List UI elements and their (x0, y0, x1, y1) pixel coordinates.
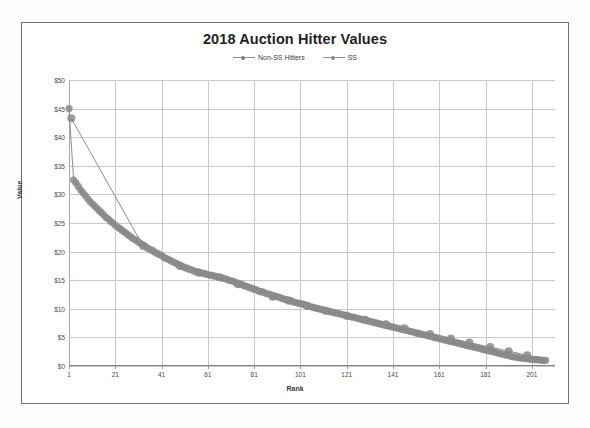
series-markers-non-ss-hitters (65, 105, 549, 364)
x-axis-tick-label: 21 (112, 371, 119, 378)
x-axis-tick-label: 1 (67, 371, 71, 378)
x-axis-tick-marks (69, 366, 555, 370)
data-point (139, 242, 147, 250)
data-point (447, 335, 455, 343)
x-axis-tick-label: 121 (341, 371, 352, 378)
y-axis-tick-label: $0 (58, 363, 65, 370)
data-point (505, 347, 513, 355)
x-axis-tick-mark (254, 366, 255, 369)
data-point (285, 297, 293, 305)
legend-item-ss[interactable]: SS (323, 54, 357, 61)
x-axis-tick-mark (439, 366, 440, 369)
data-point (343, 312, 351, 320)
y-axis-tick-label: $45 (54, 105, 65, 112)
x-axis-tick-label: 101 (295, 371, 306, 378)
y-axis-tick-label: $10 (54, 305, 65, 312)
y-axis-tick-label: $5 (58, 334, 65, 341)
data-point (542, 357, 549, 364)
data-point (195, 269, 203, 277)
data-point (382, 320, 390, 328)
legend-marker-icon (233, 54, 255, 61)
legend-label-ss: SS (348, 54, 357, 61)
data-point (361, 316, 369, 324)
x-axis-tick-label: 161 (434, 371, 445, 378)
data-point (269, 293, 277, 301)
y-axis-title: Value (16, 181, 23, 199)
data-point (426, 330, 434, 338)
x-axis-tick-label: 141 (388, 371, 399, 378)
data-point (401, 324, 409, 332)
series-line (71, 118, 527, 355)
x-axis-tick-label: 201 (526, 371, 537, 378)
data-point (234, 280, 242, 288)
x-axis-tick-mark (115, 366, 116, 369)
x-axis-tick-mark (486, 366, 487, 369)
data-point (465, 339, 473, 347)
chart-title: 2018 Auction Hitter Values (22, 31, 568, 47)
x-axis-tick-mark (208, 366, 209, 369)
data-point (67, 114, 75, 122)
y-axis-tick-label: $35 (54, 162, 65, 169)
data-point (486, 343, 494, 351)
x-axis-tick-label: 181 (480, 371, 491, 378)
scanned-page-background: 2018 Auction Hitter Values Non-SS Hitter… (0, 0, 590, 428)
x-axis-tick-mark (532, 366, 533, 369)
x-axis-tick-labels: 121416181101121141161181201 (69, 371, 555, 383)
x-axis-tick-label: 81 (251, 371, 258, 378)
x-axis-tick-mark (347, 366, 348, 369)
data-point (322, 307, 330, 315)
x-axis-tick-mark (300, 366, 301, 369)
y-axis-tick-label: $30 (54, 191, 65, 198)
legend-marker-icon (323, 54, 345, 61)
y-axis-tick-label: $20 (54, 248, 65, 255)
legend-item-non-ss-hitters[interactable]: Non-SS Hitters (233, 54, 305, 61)
chart-legend: Non-SS Hitters SS (22, 54, 568, 61)
x-axis-tick-mark (69, 366, 70, 369)
data-point (303, 302, 311, 310)
y-axis-tick-label: $25 (54, 220, 65, 227)
y-axis-tick-labels: $0$5$10$15$20$25$30$35$40$45$50 (36, 80, 65, 366)
plot-area (69, 80, 555, 366)
series-line (69, 109, 546, 361)
x-axis-tick-label: 61 (204, 371, 211, 378)
data-series-layer (69, 80, 555, 366)
x-axis-tick-label: 41 (158, 371, 165, 378)
y-axis-tick-label: $40 (54, 134, 65, 141)
x-axis-tick-mark (393, 366, 394, 369)
data-point (215, 273, 223, 281)
data-point (176, 262, 184, 270)
x-axis-title: Rank (22, 385, 568, 392)
legend-label-non-ss-hitters: Non-SS Hitters (258, 54, 305, 61)
y-axis-tick-label: $50 (54, 77, 65, 84)
y-axis-tick-label: $15 (54, 277, 65, 284)
x-axis-tick-mark (162, 366, 163, 369)
data-point (523, 351, 531, 359)
chart-container: 2018 Auction Hitter Values Non-SS Hitter… (21, 22, 569, 404)
data-point (65, 105, 72, 112)
